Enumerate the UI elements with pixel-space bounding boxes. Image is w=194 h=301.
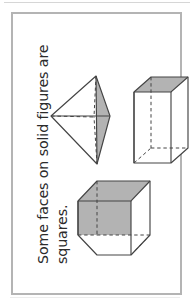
prism-front-face [134, 92, 171, 163]
triangular-pyramid-icon [49, 72, 127, 168]
cube-icon [75, 177, 157, 261]
scan-top-rule [4, 2, 190, 3]
figure-cube [75, 177, 157, 261]
rectangular-prism-icon [131, 74, 193, 178]
pyramid-shaded-face [96, 76, 110, 164]
figure-rectangular-prism [131, 74, 193, 178]
worksheet-page-card: Some faces on solid figures are squares. [11, 12, 182, 295]
cube-shaded-front-face [78, 201, 131, 235]
scan-bottom-smudge [10, 297, 180, 298]
pyramid-left-face [51, 76, 97, 164]
page-root: Some faces on solid figures are squares. [0, 0, 194, 301]
cube-lower-front-face [78, 235, 131, 255]
figure-triangular-pyramid [49, 72, 127, 168]
